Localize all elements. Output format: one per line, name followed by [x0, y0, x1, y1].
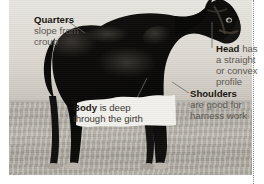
callout-shoulders-headword: Shoulders — [190, 88, 237, 99]
horse-hind-leg-far — [49, 96, 59, 164]
horse-hoof-front-far — [142, 163, 155, 169]
callout-shoulders-line2: harness work — [190, 110, 262, 121]
callout-head-line1: has — [242, 43, 257, 54]
callout-body-line2: through the girth — [73, 113, 169, 124]
callout-head: Head has a straight or convex profile — [216, 43, 264, 88]
callout-body: Body is deep through the girth — [73, 102, 169, 124]
callout-body-headword: Body — [73, 102, 97, 113]
callout-quarters-line2: croup — [34, 36, 126, 47]
page-dotted-rule — [253, 0, 254, 184]
horse-hoof-hind — [65, 163, 81, 170]
callout-shoulders-line1: are good for — [190, 99, 262, 110]
horse-conformation-figure: Quarters slope from croup Head has a str… — [0, 0, 264, 184]
callout-head-line4: profile — [216, 76, 264, 87]
callout-head-headword: Head — [216, 43, 239, 54]
callout-head-line3: or convex — [216, 65, 264, 76]
horse-coat-sheen-barrel — [97, 46, 157, 78]
horse-hoof-hind-far — [46, 163, 60, 169]
callout-quarters-headword: Quarters — [34, 14, 74, 25]
callout-quarters: Quarters slope from croup — [34, 14, 126, 47]
callout-head-line2: a straight — [216, 54, 264, 65]
leader-line-shoulders — [172, 82, 189, 93]
horse-eye-pupil — [228, 19, 231, 22]
callout-quarters-line1: slope from — [34, 25, 126, 36]
callout-body-line1: is deep — [100, 102, 131, 113]
horse-coat-sheen-shoulder — [143, 26, 175, 50]
callout-shoulders: Shoulders are good for harness work — [190, 88, 262, 121]
